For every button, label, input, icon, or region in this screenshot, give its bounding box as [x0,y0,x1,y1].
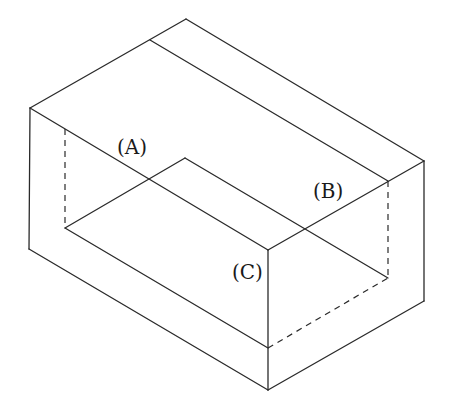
hidden-edge [268,278,388,348]
visible-edges [29,19,424,390]
isometric-u-channel-diagram [0,0,454,403]
visible-edge [268,301,424,390]
visible-edge [150,40,388,181]
label-b: (B) [313,181,343,201]
hidden-edges [65,129,388,348]
label-a: (A) [117,137,147,157]
visible-edge [65,158,185,228]
visible-edge [29,108,30,249]
visible-edge [30,19,186,108]
visible-edge [268,161,424,250]
label-c: (C) [232,262,263,282]
visible-edge [186,19,424,161]
